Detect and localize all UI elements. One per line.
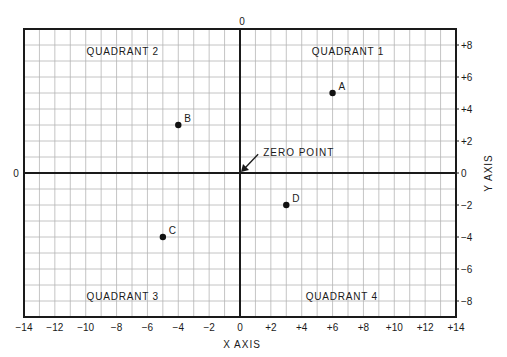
point-label: C [169, 225, 176, 236]
x-tick-labels: −14−12−10−8−6−4−20+2+4+6+8+10+12+14 [16, 322, 465, 333]
zero-point-label: ZERO POINT [263, 147, 334, 158]
x-tick-label: +10 [386, 322, 403, 333]
y-tick-label: +6 [461, 72, 473, 83]
zero-point-arrow [245, 154, 258, 168]
y-tick-label: −6 [461, 264, 473, 275]
y-tick-label: −2 [461, 200, 473, 211]
y-tick-label: −4 [461, 232, 473, 243]
y-tick-labels: +8+6+4+20−2−4−6−8 [456, 40, 473, 307]
quadrant-label: QUADRANT 2 [87, 46, 159, 57]
data-point-c [160, 234, 166, 240]
data-point-d [283, 202, 289, 208]
y-tick-label: +2 [461, 136, 473, 147]
y-tick-label: +8 [461, 40, 473, 51]
x-tick-label: 0 [237, 322, 243, 333]
x-tick-label: +8 [358, 322, 370, 333]
point-label: A [339, 81, 346, 92]
coordinate-plane-chart: −14−12−10−8−6−4−20+2+4+6+8+10+12+14 +8+6… [0, 0, 507, 357]
x-tick-label: +12 [417, 322, 434, 333]
x-tick-label: +6 [327, 322, 339, 333]
data-point-a [329, 90, 335, 96]
quadrant-label: QUADRANT 4 [306, 291, 378, 302]
y-tick-label: −8 [461, 296, 473, 307]
y-axis-label: Y AXIS [483, 154, 494, 192]
y-axis-zero-label: 0 [239, 16, 245, 27]
x-tick-label: −14 [16, 322, 33, 333]
x-tick-label: −12 [46, 322, 63, 333]
y-tick-label: +4 [461, 104, 473, 115]
x-axis-label: X AXIS [223, 339, 261, 350]
quadrant-label: QUADRANT 3 [87, 291, 159, 302]
x-axis-zero-label: 0 [13, 168, 19, 179]
point-label: D [292, 193, 299, 204]
x-tick-label: −8 [111, 322, 123, 333]
x-tick-label: −2 [203, 322, 215, 333]
quadrant-label: QUADRANT 1 [312, 46, 384, 57]
x-tick-label: +14 [448, 322, 465, 333]
data-point-b [175, 122, 181, 128]
x-tick-label: −10 [77, 322, 94, 333]
x-tick-label: −4 [173, 322, 185, 333]
y-tick-label: 0 [461, 168, 467, 179]
x-tick-label: −6 [142, 322, 154, 333]
point-label: B [184, 113, 191, 124]
x-tick-label: +2 [265, 322, 277, 333]
x-tick-label: +4 [296, 322, 308, 333]
